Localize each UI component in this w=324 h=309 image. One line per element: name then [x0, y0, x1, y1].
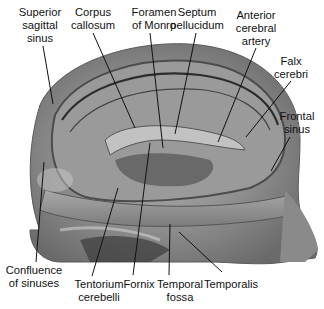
label-confluence-of-sinuses: Confluence of sinuses [6, 264, 63, 290]
label-temporal-fossa: Temporal fossa [157, 278, 203, 304]
label-superior-sagittal-sinus: Superior sagittal sinus [19, 6, 61, 45]
label-septum-pellucidum: Septum pellucidum [170, 6, 223, 32]
label-corpus-callosum: Corpus callosum [71, 6, 115, 32]
label-fornix: Fornix [123, 278, 154, 291]
label-anterior-cerebral-artery: Anterior cerebral artery [236, 9, 276, 48]
label-temporalis: Temporalis [204, 278, 258, 291]
label-tentorium-cerebelli: Tentorium cerebelli [74, 278, 123, 304]
label-frontal-sinus: Frontal sinus [280, 110, 315, 136]
label-falx-cerebri: Falx cerebri [274, 55, 308, 81]
anatomy-figure: Superior sagittal sinus Corpus callosum … [0, 0, 324, 309]
